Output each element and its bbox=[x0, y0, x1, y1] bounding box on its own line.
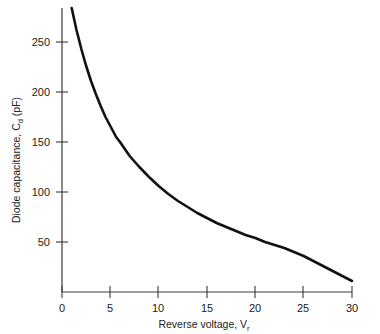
y-tick-labels: 250 200 150 100 50 bbox=[32, 36, 50, 248]
svg-text:Diode capacitance, Cd (pF): Diode capacitance, Cd (pF) bbox=[10, 97, 25, 223]
x-tick-label-0: 0 bbox=[59, 302, 65, 314]
svg-text:Reverse voltage, Vr: Reverse voltage, Vr bbox=[158, 318, 250, 333]
y-tick-label-250: 250 bbox=[32, 36, 50, 48]
x-tick-label-25: 25 bbox=[297, 302, 309, 314]
y-tick-label-50: 50 bbox=[38, 236, 50, 248]
y-axis-title-text: Diode capacitance, C bbox=[10, 123, 22, 223]
axes-group bbox=[62, 8, 352, 292]
x-tick-label-20: 20 bbox=[249, 302, 261, 314]
x-axis-title-subscript: r bbox=[247, 324, 250, 333]
x-tick-label-15: 15 bbox=[201, 302, 213, 314]
chart-figure: 250 200 150 100 50 0 5 10 15 20 25 30 Re… bbox=[0, 0, 380, 334]
x-tick-labels: 0 5 10 15 20 25 30 bbox=[59, 302, 358, 314]
y-tick-label-150: 150 bbox=[32, 136, 50, 148]
x-axis-title-text: Reverse voltage, V bbox=[158, 318, 247, 330]
diode-capacitance-plot: 250 200 150 100 50 0 5 10 15 20 25 30 Re… bbox=[0, 0, 380, 334]
y-tick-label-200: 200 bbox=[32, 86, 50, 98]
y-axis-title: Diode capacitance, Cd (pF) bbox=[10, 97, 25, 223]
x-tick-label-5: 5 bbox=[107, 302, 113, 314]
x-tick-label-30: 30 bbox=[346, 302, 358, 314]
y-axis-title-unit: (pF) bbox=[10, 97, 22, 119]
data-series-curve bbox=[72, 8, 352, 281]
x-axis-title: Reverse voltage, Vr bbox=[158, 318, 250, 333]
y-tick-label-100: 100 bbox=[32, 186, 50, 198]
x-tick-label-10: 10 bbox=[152, 302, 164, 314]
